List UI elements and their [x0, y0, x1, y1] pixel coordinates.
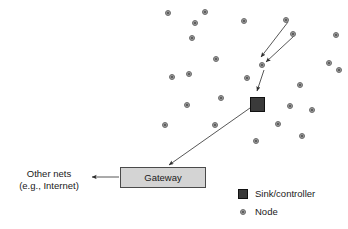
sensor-node	[169, 74, 175, 80]
sensor-node	[162, 122, 168, 128]
gateway-label: Gateway	[144, 172, 182, 183]
sensor-node	[275, 121, 281, 127]
arrow-relay-to-sink	[257, 70, 264, 91]
sink-controller-marker	[250, 97, 265, 112]
other-nets-label: Other nets (e.g., Internet)	[11, 168, 87, 192]
network-diagram: Gateway Other nets (e.g., Internet) Sink…	[0, 0, 348, 229]
sensor-node	[186, 71, 192, 77]
legend: Sink/controller Node	[238, 186, 346, 222]
sensor-node	[287, 103, 293, 109]
arrow-sink-to-gateway	[169, 108, 250, 165]
legend-node-circle-icon	[240, 209, 246, 215]
sensor-node	[212, 122, 218, 128]
sensor-node	[218, 95, 224, 101]
sensor-node	[297, 82, 303, 88]
sensor-node	[192, 20, 198, 26]
sensor-node	[309, 107, 315, 113]
sensor-node	[290, 31, 296, 37]
sensor-node	[326, 60, 332, 66]
legend-node-label: Node	[255, 206, 278, 217]
sensor-node	[333, 32, 339, 38]
sensor-node	[189, 35, 195, 41]
legend-item-sink: Sink/controller	[238, 186, 346, 204]
sensor-node	[299, 133, 305, 139]
legend-item-node: Node	[238, 204, 346, 222]
gateway-box[interactable]: Gateway	[120, 167, 206, 188]
other-nets-line2: (e.g., Internet)	[11, 180, 87, 192]
sensor-node	[184, 102, 190, 108]
sensor-node	[253, 138, 259, 144]
legend-sink-label: Sink/controller	[255, 188, 315, 199]
arrow-node-to-relay-1	[261, 22, 288, 57]
sensor-node	[336, 67, 342, 73]
sensor-node	[202, 9, 208, 15]
sensor-node	[241, 18, 247, 24]
sensor-node	[259, 62, 265, 68]
sensor-node	[213, 56, 219, 62]
sensor-node	[283, 17, 289, 23]
sensor-node	[244, 75, 250, 81]
sensor-node	[165, 10, 171, 16]
arrow-node-to-relay-2	[266, 36, 294, 62]
legend-sink-square-icon	[238, 189, 248, 199]
other-nets-line1: Other nets	[11, 168, 87, 180]
